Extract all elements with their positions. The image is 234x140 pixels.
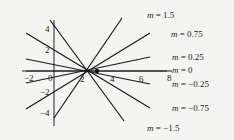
x-tick-neg2: −2 [24, 73, 34, 83]
x-tick-4: 4 [110, 74, 115, 84]
label-m-0: m = 0 [172, 65, 193, 75]
convergence-point [95, 69, 99, 73]
label-m-neg1.5: m = −1.5 [147, 123, 180, 133]
x-tick-0: 0 [48, 73, 53, 83]
label-m-neg0.25: m = −0.25 [172, 79, 209, 89]
label-m-0.25: m = 0.25 [172, 52, 204, 62]
x-tick-6: 6 [139, 74, 144, 84]
y-tick-neg4: −4 [40, 108, 50, 118]
y-tick-2: 2 [45, 45, 50, 55]
label-m-neg0.75: m = −0.75 [172, 103, 209, 113]
label-m-1.5: m = 1.5 [147, 10, 175, 20]
y-tick-4: 4 [45, 24, 50, 34]
line-m-1.5 [54, 18, 122, 118]
line-family-diagram: 4 2 −2 −4 −2 0 2 4 6 8 m = 1.5 m = 0.75 … [0, 0, 234, 140]
y-tick-neg2: −2 [40, 87, 50, 97]
x-tick-2: 2 [80, 74, 85, 84]
label-m-0.75: m = 0.75 [171, 29, 203, 39]
